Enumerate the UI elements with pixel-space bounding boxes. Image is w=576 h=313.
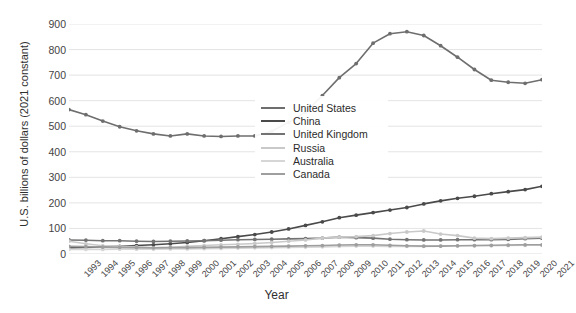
data-point [337,216,341,220]
data-point [439,238,443,242]
x-tick-label: 2013 [420,258,441,279]
data-point [304,244,308,248]
data-point [456,238,460,242]
data-point [118,239,122,243]
data-point [101,119,105,123]
data-point [219,245,223,249]
data-point [422,34,426,38]
data-point [304,238,308,242]
data-point [371,234,375,238]
data-point [236,134,240,138]
data-point [422,244,426,248]
data-point [236,238,240,242]
legend-swatch [261,120,285,122]
data-point [371,243,375,247]
data-point [168,134,172,138]
data-point [135,246,139,250]
data-point [405,230,409,234]
x-tick-label: 2004 [268,258,289,279]
x-axis-label: Year [0,288,553,302]
data-point [405,238,409,242]
x-tick-label: 1996 [133,258,154,279]
data-point [473,194,477,198]
x-tick-label: 2002 [234,258,255,279]
data-point [168,239,172,243]
data-point [84,238,88,242]
x-tick-label: 2003 [251,258,272,279]
data-point [185,246,189,250]
data-point [253,238,257,242]
data-point [270,230,274,234]
data-point [253,233,257,237]
y-tick-label: 800 [32,44,66,56]
data-point [152,240,156,244]
legend-swatch [261,133,285,135]
data-point [185,132,189,136]
data-point [270,241,274,245]
data-point [405,30,409,34]
data-point [456,55,460,59]
data-point [202,239,206,243]
x-tick-label: 1993 [82,258,103,279]
chart-legend: United StatesChinaUnited KingdomRussiaAu… [255,96,388,186]
data-point [473,236,477,240]
y-tick-label: 0 [32,248,66,260]
legend-label: United Kingdom [293,128,368,140]
data-point [456,196,460,200]
data-point [219,135,223,139]
data-point [337,235,341,239]
data-point [439,199,443,203]
data-point [320,220,324,224]
data-point [506,80,510,84]
data-point [135,129,139,133]
data-point [405,244,409,248]
data-point [320,236,324,240]
y-tick-label: 100 [32,222,66,234]
data-point [523,243,527,247]
legend-label: Russia [293,142,325,154]
data-point [523,236,527,240]
x-tick-label: 2015 [454,258,475,279]
y-tick-label: 400 [32,146,66,158]
x-tick-label: 2020 [538,258,559,279]
data-point [354,243,358,247]
data-point [337,243,341,247]
x-tick-label: 2014 [437,258,458,279]
y-tick-label: 300 [32,171,66,183]
data-point [118,245,122,249]
data-point [388,237,392,241]
data-point [253,245,257,249]
data-point [405,206,409,210]
x-tick-label: 2019 [521,258,542,279]
data-point [304,223,308,227]
data-point [388,32,392,36]
data-point [101,239,105,243]
data-point [489,78,493,82]
x-tick-label: 2009 [352,258,373,279]
data-point [101,245,105,249]
data-point [185,239,189,243]
y-tick-label: 500 [32,120,66,132]
data-point [456,244,460,248]
x-tick-label: 1998 [166,258,187,279]
x-tick-label: 1999 [183,258,204,279]
data-point [152,246,156,250]
data-point [489,243,493,247]
y-tick-label: 600 [32,95,66,107]
data-point [287,244,291,248]
legend-item: China [261,114,382,127]
data-point [439,232,443,236]
data-point [337,76,341,80]
data-point [489,192,493,196]
y-tick-label: 700 [32,69,66,81]
x-tick-label: 2011 [386,258,407,279]
data-point [287,227,291,231]
data-point [152,132,156,136]
data-point [202,134,206,138]
x-tick-label: 1994 [99,258,120,279]
y-axis-label: U.S. billions of dollars (2021 constant) [18,14,30,254]
legend-item: Australia [261,154,382,167]
data-point [388,232,392,236]
data-point [439,44,443,48]
data-point [354,213,358,217]
